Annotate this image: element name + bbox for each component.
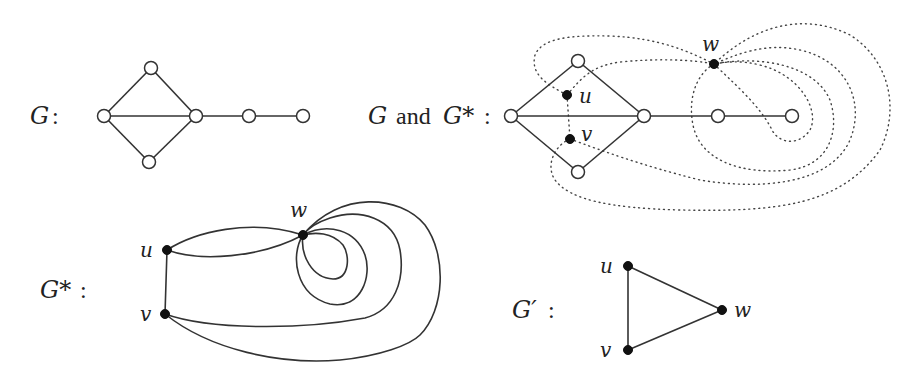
vertex-v bbox=[161, 310, 170, 319]
edge bbox=[151, 68, 196, 116]
dual-vertex-u bbox=[563, 91, 572, 100]
edge bbox=[167, 227, 303, 250]
vertex-w bbox=[299, 231, 308, 240]
label-w: w bbox=[290, 198, 307, 222]
label-g-colon: : bbox=[52, 103, 59, 129]
label-w: w bbox=[734, 298, 751, 322]
edge bbox=[167, 235, 303, 257]
vertex bbox=[712, 110, 725, 123]
label-u: u bbox=[579, 84, 592, 108]
edge bbox=[165, 250, 167, 314]
vertex bbox=[143, 156, 156, 169]
diagram-canvas: G : G and G* : bbox=[0, 0, 918, 382]
vertex-u bbox=[624, 262, 633, 271]
dual-edge bbox=[567, 95, 570, 139]
label-colon: : bbox=[484, 103, 491, 129]
dual-loop bbox=[714, 62, 813, 141]
vertex bbox=[786, 110, 799, 123]
panel-simple: G′ : u v w bbox=[512, 254, 751, 362]
edge bbox=[149, 116, 196, 162]
dual-vertex-w bbox=[710, 60, 719, 69]
label-g-star: G* bbox=[40, 276, 71, 304]
vertex bbox=[98, 110, 111, 123]
vertex bbox=[145, 62, 158, 75]
panel-dual: G* : u v w bbox=[40, 198, 440, 361]
label-u: u bbox=[600, 254, 613, 278]
panel-g-and-dual: G and G* : u v bbox=[368, 24, 890, 211]
edge bbox=[628, 310, 722, 350]
vertex-w bbox=[718, 306, 727, 315]
label-g-star: G* bbox=[443, 102, 474, 130]
label-v: v bbox=[581, 122, 593, 146]
edge bbox=[104, 116, 149, 162]
vertex bbox=[638, 110, 651, 123]
label-v: v bbox=[140, 302, 152, 326]
edge bbox=[104, 68, 151, 116]
vertex bbox=[190, 110, 203, 123]
vertex bbox=[505, 110, 518, 123]
edge bbox=[511, 61, 578, 116]
panel-g: G : bbox=[30, 62, 310, 169]
label-colon: : bbox=[80, 277, 87, 303]
edge bbox=[165, 214, 401, 326]
edge bbox=[628, 266, 722, 310]
label-w: w bbox=[702, 32, 719, 56]
label-v: v bbox=[600, 338, 612, 362]
vertex bbox=[572, 166, 585, 179]
vertex bbox=[297, 110, 310, 123]
label-g: G bbox=[30, 102, 49, 130]
vertex-u bbox=[163, 246, 172, 255]
vertex-v bbox=[624, 346, 633, 355]
label-u: u bbox=[140, 238, 153, 262]
vertex bbox=[243, 110, 256, 123]
label-g-prime: G′ bbox=[512, 296, 537, 324]
dual-edge bbox=[534, 36, 714, 95]
label-g: G bbox=[368, 102, 387, 130]
dual-vertex-v bbox=[566, 135, 575, 144]
label-colon: : bbox=[548, 297, 555, 323]
vertex bbox=[572, 55, 585, 68]
edge bbox=[511, 116, 578, 172]
loop bbox=[296, 229, 367, 305]
loop bbox=[303, 233, 348, 279]
label-and: and bbox=[396, 103, 431, 129]
